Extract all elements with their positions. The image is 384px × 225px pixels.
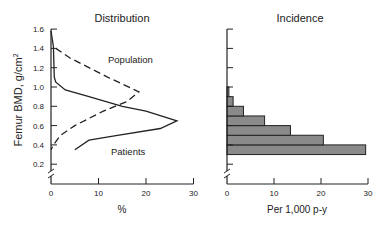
y-axis-label-sup: 2 bbox=[12, 53, 19, 57]
incidence-bar bbox=[227, 135, 323, 145]
distribution-title: Distribution bbox=[94, 12, 149, 24]
incidence-bar bbox=[227, 116, 265, 126]
x-tick-label: 20 bbox=[317, 189, 326, 198]
y-tick-label: 1.2 bbox=[33, 64, 45, 73]
incidence-x-label: Per 1,000 p-y bbox=[267, 204, 327, 215]
x-tick-label: 0 bbox=[225, 189, 230, 198]
distribution-panel: Distribution 0.20.40.60.81.01.21.41.6010… bbox=[33, 12, 199, 215]
incidence-bar bbox=[227, 126, 290, 136]
x-tick-label: 10 bbox=[94, 189, 103, 198]
y-tick-label: 1.0 bbox=[33, 83, 45, 92]
patients-line bbox=[51, 31, 177, 150]
distribution-axes: 0.20.40.60.81.01.21.41.60102030 bbox=[33, 25, 199, 198]
incidence-title: Incidence bbox=[276, 12, 323, 24]
incidence-axes: 0102030 bbox=[224, 29, 373, 198]
x-tick-label: 0 bbox=[49, 189, 54, 198]
distribution-x-label: % bbox=[118, 204, 127, 215]
y-tick-label: 1.6 bbox=[33, 25, 45, 34]
y-tick-label: 0.4 bbox=[33, 141, 45, 150]
population-label: Population bbox=[108, 54, 153, 65]
incidence-bar bbox=[227, 145, 366, 155]
figure: Distribution 0.20.40.60.81.01.21.41.6010… bbox=[0, 0, 384, 225]
y-axis-label: Femur BMD, g/cm2 bbox=[12, 53, 24, 146]
x-tick-label: 30 bbox=[364, 189, 373, 198]
patients-label: Patients bbox=[111, 146, 146, 157]
y-tick-label: 0.2 bbox=[33, 160, 45, 169]
x-tick-label: 10 bbox=[270, 189, 279, 198]
distribution-lines bbox=[51, 31, 177, 150]
incidence-bar bbox=[227, 97, 233, 107]
incidence-panel: Incidence 0102030 Per 1,000 p-y bbox=[224, 12, 373, 215]
y-tick-label: 1.4 bbox=[33, 44, 45, 53]
incidence-bar bbox=[227, 106, 243, 116]
y-tick-label: 0.6 bbox=[33, 122, 45, 131]
y-axis-label-text: Femur BMD, g/cm bbox=[12, 57, 24, 146]
x-tick-label: 20 bbox=[142, 189, 151, 198]
incidence-bars bbox=[227, 87, 366, 155]
y-tick-label: 0.8 bbox=[33, 102, 45, 111]
x-tick-label: 30 bbox=[189, 189, 198, 198]
